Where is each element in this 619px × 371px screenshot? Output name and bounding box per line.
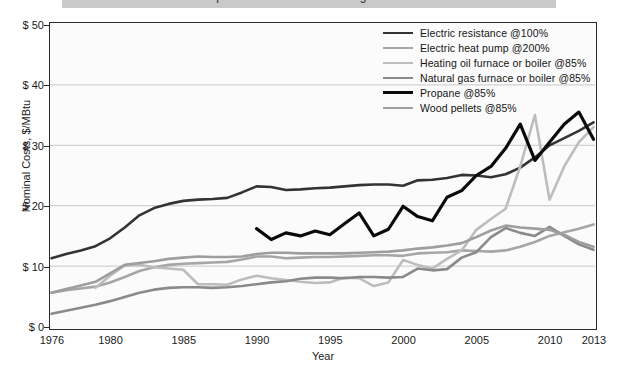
- x-tick-label-1985: 1985: [154, 334, 214, 346]
- x-tick-label-1995: 1995: [300, 334, 360, 346]
- y-tick-label-0: $ 0: [4, 321, 44, 333]
- chart-title-band: Comparative Residential Heating Fuel Cos…: [62, 0, 556, 8]
- series-line-2: [95, 115, 593, 288]
- legend-label: Electric heat pump @200%: [420, 42, 550, 54]
- legend-swatch-icon: [383, 62, 413, 64]
- legend-label: Wood pellets @85%: [420, 102, 517, 114]
- legend-item-4[interactable]: Propane @85%: [383, 85, 591, 100]
- legend-item-5[interactable]: Wood pellets @85%: [383, 100, 591, 115]
- legend-item-0[interactable]: Electric resistance @100%: [383, 25, 591, 40]
- legend-swatch-icon: [383, 107, 413, 109]
- legend-label: Natural gas furnace or boiler @85%: [420, 72, 590, 84]
- x-axis-label: Year: [312, 350, 334, 362]
- x-tick-label-1990: 1990: [227, 334, 287, 346]
- legend-item-1[interactable]: Electric heat pump @200%: [383, 40, 591, 55]
- legend-swatch-icon: [383, 32, 413, 34]
- legend-label: Heating oil furnace or boiler @85%: [420, 57, 586, 69]
- legend-swatch-icon: [383, 47, 413, 49]
- x-tick-label-2000: 2000: [374, 334, 434, 346]
- x-tick-label-1980: 1980: [81, 334, 141, 346]
- data-series-group: [52, 112, 594, 314]
- chart-legend: Electric resistance @100%Electric heat p…: [383, 25, 591, 115]
- x-tick-label-2005: 2005: [447, 334, 507, 346]
- y-tick-label-50: $ 50: [4, 19, 44, 31]
- series-line-3: [52, 227, 594, 314]
- chart-title: Comparative Residential Heating Fuel Cos…: [62, 0, 556, 3]
- y-axis-label: Nominal Costs, $/MBtu: [20, 66, 32, 246]
- chart-figure: Comparative Residential Heating Fuel Cos…: [0, 0, 619, 371]
- legend-label: Propane @85%: [420, 87, 496, 99]
- legend-item-3[interactable]: Natural gas furnace or boiler @85%: [383, 70, 591, 85]
- legend-item-2[interactable]: Heating oil furnace or boiler @85%: [383, 55, 591, 70]
- series-line-4: [257, 112, 594, 239]
- x-tick-label-2013: 2013: [564, 334, 619, 346]
- legend-label: Electric resistance @100%: [420, 27, 548, 39]
- legend-swatch-icon: [383, 77, 413, 79]
- x-tick-label-1976: 1976: [22, 334, 82, 346]
- y-tick-label-10: $ 10: [4, 261, 44, 273]
- legend-swatch-icon: [383, 91, 413, 94]
